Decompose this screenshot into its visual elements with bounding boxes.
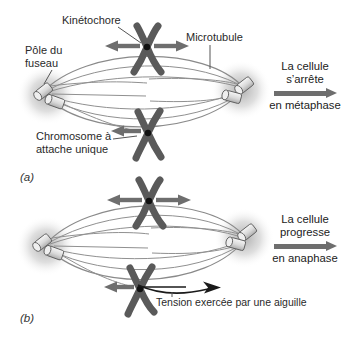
kinetochore-dot xyxy=(145,130,151,136)
kinetochore-dot xyxy=(146,198,152,204)
tension-needle-label: Tension exercée par une aiguille xyxy=(156,296,307,309)
kinetochore-label: Kinétochore xyxy=(62,14,121,27)
chromosome-bioriented-b xyxy=(107,180,191,226)
outcome-metaphase-line1: La cellule xyxy=(281,60,329,73)
spindle-pole-label-line1: Pôle du xyxy=(25,44,62,57)
outcome-metaphase-line3: en métaphase xyxy=(269,99,341,112)
outcome-metaphase: La cellule s’arrête en métaphase xyxy=(261,60,349,112)
outcome-anaphase-line1: La cellule xyxy=(281,213,329,226)
panel-b-tag: (b) xyxy=(20,312,34,324)
outcome-anaphase-line3: en anaphase xyxy=(272,252,337,265)
figure-spindle-checkpoint: Kinétochore Microtubule Pôle du fuseau C… xyxy=(0,0,350,338)
chromosome-bioriented-a xyxy=(105,26,189,72)
right-arrow-icon xyxy=(274,88,337,98)
panel-a-tag: (a) xyxy=(20,171,34,183)
microtubule-label: Microtubule xyxy=(186,31,243,44)
spindle-b xyxy=(16,180,274,314)
outcome-anaphase-line2: progresse xyxy=(280,226,330,239)
mono-chromosome-label-line2: attache unique xyxy=(36,143,111,156)
mono-chromosome-label-line1: Chromosome à xyxy=(36,130,111,143)
spindle-pole-label: Pôle du fuseau xyxy=(25,44,62,69)
needle-arrow xyxy=(138,282,221,298)
outcome-metaphase-line2: s’arrête xyxy=(286,73,324,86)
outcome-anaphase: La cellule progresse en anaphase xyxy=(261,213,349,265)
spindle-pole-label-line2: fuseau xyxy=(25,57,62,70)
right-arrow-icon xyxy=(274,241,337,251)
kinetochore-dot xyxy=(144,44,150,50)
mono-chromosome-label: Chromosome à attache unique xyxy=(36,130,111,155)
